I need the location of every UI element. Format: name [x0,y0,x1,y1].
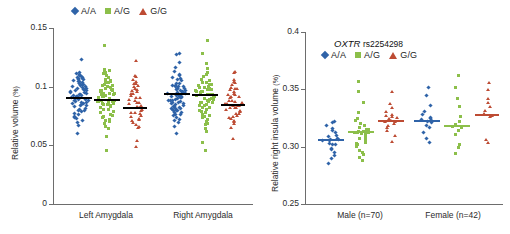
data-point [102,108,105,111]
data-point [388,102,392,105]
data-point [70,84,74,88]
left-category-label: Left Amygdala [56,210,156,220]
data-point [134,59,138,62]
right-y-tick-label: 0.25 [257,199,299,207]
data-point [205,130,208,133]
data-point [354,119,357,122]
data-point [112,93,115,96]
data-point [76,123,80,127]
mean-line [475,114,499,116]
data-point [208,114,211,117]
left-legend-item-gg: G/G [139,6,167,16]
data-point [457,146,460,149]
data-point [129,94,133,97]
data-point [364,141,367,144]
left-y-tick [49,204,53,205]
data-point [395,116,399,119]
data-point [420,112,424,116]
data-point [206,67,209,70]
data-point [79,57,83,61]
data-point [208,79,211,82]
data-point [224,108,228,111]
mean-line [444,125,470,127]
data-point [205,62,208,65]
left-legend-item-aa: A/A [72,6,96,16]
data-point [454,152,457,155]
data-point [362,101,365,104]
data-point [103,44,106,47]
data-point [210,88,213,91]
data-point [108,69,111,72]
legend-left: A/AA/GG/G [72,6,167,16]
data-point [107,81,110,84]
left-y-axis-label-text: Relative volume [10,100,20,160]
right-y-tick-label: 0.4 [257,27,299,35]
data-point [326,161,330,165]
data-point [422,130,426,134]
data-point [357,111,360,114]
data-point [129,115,133,118]
data-point [231,137,235,140]
data-point [135,90,139,93]
data-point [112,102,115,105]
data-point [486,97,490,100]
mean-line [348,131,374,133]
left-y-tick-label: 0.1 [5,82,47,90]
left-legend-label: A/G [114,6,130,16]
triangle-marker-icon [139,8,147,15]
left-y-tick-label: 0.05 [5,140,47,148]
data-point [108,92,111,95]
data-point [390,140,394,143]
data-point [111,114,114,117]
data-point [108,120,111,123]
data-point [136,126,140,129]
data-point [84,91,88,95]
data-point [127,102,131,105]
data-point [487,81,491,84]
data-point [384,110,388,113]
data-point [201,52,204,55]
data-point [201,81,204,84]
right-y-tick [301,204,305,205]
data-point [203,104,206,107]
data-point [330,121,334,125]
mean-line [378,120,404,122]
data-point [104,87,107,90]
data-point [454,86,457,89]
data-point [427,86,431,90]
data-point [204,149,207,152]
data-point [233,106,237,109]
data-point [200,101,203,104]
data-point [457,129,460,132]
data-point [324,123,328,127]
data-point [358,126,361,129]
data-point [201,116,204,119]
data-point [127,98,131,101]
data-point [72,104,76,108]
data-point [172,124,176,128]
mean-line [94,99,120,101]
data-point [75,131,79,135]
data-point [459,115,462,118]
data-point [427,141,431,145]
data-point [172,69,176,73]
data-point [458,120,461,123]
data-point [458,105,461,108]
left-y-axis-label: Relative volume (%) [10,86,20,160]
data-point [232,71,236,74]
data-point [135,139,139,142]
left-legend-label: A/A [81,6,96,16]
data-point [456,97,459,100]
data-point [393,134,397,137]
left-x-axis-line [53,204,253,205]
data-point [198,86,201,89]
data-point [357,80,360,83]
data-point [233,93,237,96]
mean-line [164,93,190,95]
data-point [137,118,141,121]
left-legend-item-ag: A/G [105,6,130,16]
data-point [392,122,396,125]
data-point [486,88,490,91]
left-category-label: Right Amygdala [153,210,253,220]
data-point [138,96,142,99]
